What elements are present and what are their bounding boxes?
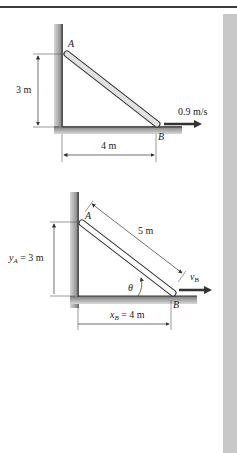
point-a-label: A	[67, 38, 75, 49]
xb-label: xB = 4 m	[109, 309, 145, 322]
ladder-diagram: A B 3 m 4 m 0.9 m/s A B 5 m	[0, 0, 237, 453]
angle-arc	[138, 278, 142, 296]
height-label: 3 m	[16, 84, 32, 95]
point-b-label: B	[158, 131, 164, 142]
figure-2: A B 5 m yA = 3 m xB = 4 m θ vB	[8, 192, 212, 330]
velocity-label: vB	[190, 271, 199, 284]
length-label: 5 m	[138, 225, 154, 236]
velocity-label: 0.9 m/s	[178, 106, 208, 117]
angle-label: θ	[128, 282, 133, 293]
base-label: 4 m	[101, 140, 117, 151]
figure-1: A B 3 m 4 m 0.9 m/s	[14, 24, 208, 162]
point-b-label: B	[173, 299, 179, 310]
